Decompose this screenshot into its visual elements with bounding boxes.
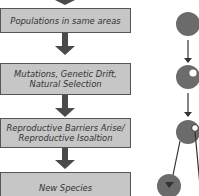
split-arrow-right-icon — [195, 132, 199, 196]
step-label-line1: Reproductive Barriers Arise/ — [6, 123, 124, 133]
arrow-head-2 — [55, 108, 75, 117]
arrow-shaft-2 — [62, 95, 68, 108]
step-label: Populations in same areas — [10, 16, 120, 26]
arrow-shaft-3 — [62, 148, 68, 160]
arrow-head-1 — [55, 46, 75, 55]
step-label-line2: Reproductive Isoaltion — [19, 133, 113, 143]
step-box-barriers: Reproductive Barriers Arise/ Reproductiv… — [0, 118, 131, 148]
step-box-mutations: Mutations, Genetic Drift, Natural Select… — [0, 63, 131, 95]
speciation-illustration — [140, 0, 199, 196]
arrow-head-3 — [55, 160, 75, 169]
arrow-head-top — [55, 0, 75, 5]
step-box-new-species: New Species — [0, 172, 131, 196]
step-label: New Species — [39, 183, 92, 193]
step-box-populations: Populations in same areas — [0, 8, 131, 33]
arrow-down-icon — [184, 40, 192, 63]
step-label-line1: Mutations, Genetic Drift, — [14, 69, 117, 79]
arrow-down-icon — [184, 93, 192, 117]
step-label-line2: Natural Selection — [29, 79, 101, 89]
arrow-shaft-1 — [62, 33, 68, 46]
population-circle-2-with-mutant — [176, 65, 199, 89]
population-circle-1 — [176, 12, 199, 36]
new-species-circle — [157, 174, 181, 196]
